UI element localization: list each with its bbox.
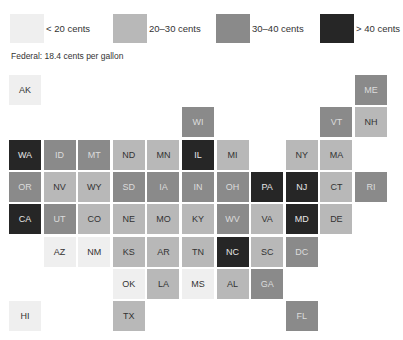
state-tile-tx: TX xyxy=(113,301,145,331)
state-tile-ok: OK xyxy=(113,269,145,299)
state-tile-nj: NJ xyxy=(286,172,318,202)
state-tile-tn: TN xyxy=(182,237,214,267)
state-tile-nv: NV xyxy=(44,172,76,202)
state-tile-oh: OH xyxy=(217,172,249,202)
state-tile-vt: VT xyxy=(320,107,352,137)
state-tile-ak: AK xyxy=(9,75,41,105)
state-tile-ut: UT xyxy=(44,204,76,234)
state-tile-al: AL xyxy=(217,269,249,299)
state-tile-ct: CT xyxy=(320,172,352,202)
state-tile-ga: GA xyxy=(251,269,283,299)
state-tile-la: LA xyxy=(147,269,179,299)
state-tile-wv: WV xyxy=(217,204,249,234)
state-tile-ne: NE xyxy=(113,204,145,234)
state-tile-id: ID xyxy=(44,140,76,170)
state-tile-wi: WI xyxy=(182,107,214,137)
state-tile-mt: MT xyxy=(78,140,110,170)
state-tile-nc: NC xyxy=(217,237,249,267)
state-tile-co: CO xyxy=(78,204,110,234)
state-tile-ny: NY xyxy=(286,140,318,170)
state-tile-nm: NM xyxy=(78,237,110,267)
state-tile-fl: FL xyxy=(286,301,318,331)
state-tile-mo: MO xyxy=(147,204,179,234)
state-tile-ma: MA xyxy=(320,140,352,170)
state-tile-ar: AR xyxy=(147,237,179,267)
state-tile-dc: DC xyxy=(286,237,318,267)
state-tile-mn: MN xyxy=(147,140,179,170)
state-tile-sc: SC xyxy=(251,237,283,267)
state-tile-ks: KS xyxy=(113,237,145,267)
state-tile-ia: IA xyxy=(147,172,179,202)
state-tile-nh: NH xyxy=(355,107,387,137)
state-tile-ky: KY xyxy=(182,204,214,234)
state-tile-ca: CA xyxy=(9,204,41,234)
state-tile-grid: AKMEWIVTNHWAIDMTNDMNILMINYMAORNVWYSDIAIN… xyxy=(0,0,403,340)
state-tile-ms: MS xyxy=(182,269,214,299)
state-tile-hi: HI xyxy=(9,301,41,331)
state-tile-in: IN xyxy=(182,172,214,202)
state-tile-md: MD xyxy=(286,204,318,234)
state-tile-de: DE xyxy=(320,204,352,234)
state-tile-il: IL xyxy=(182,140,214,170)
state-tile-wa: WA xyxy=(9,140,41,170)
state-tile-ri: RI xyxy=(355,172,387,202)
state-tile-nd: ND xyxy=(113,140,145,170)
state-tile-wy: WY xyxy=(78,172,110,202)
state-tile-va: VA xyxy=(251,204,283,234)
state-tile-or: OR xyxy=(9,172,41,202)
state-tile-me: ME xyxy=(355,75,387,105)
state-tile-az: AZ xyxy=(44,237,76,267)
state-tile-mi: MI xyxy=(217,140,249,170)
state-tile-pa: PA xyxy=(251,172,283,202)
state-tile-sd: SD xyxy=(113,172,145,202)
